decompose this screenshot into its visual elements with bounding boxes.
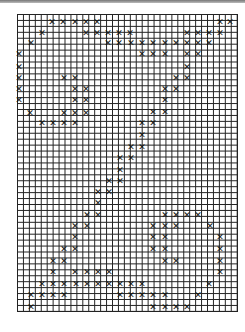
x-mark-icon: ✕ <box>49 268 57 276</box>
x-mark-icon: ✕ <box>172 257 180 265</box>
x-mark-icon: ✕ <box>149 39 157 47</box>
x-mark-icon: ✕ <box>138 280 146 288</box>
x-mark-icon: ✕ <box>27 39 35 47</box>
x-mark-icon: ✕ <box>71 245 79 253</box>
x-mark-icon: ✕ <box>161 291 169 299</box>
x-mark-icon: ✕ <box>138 131 146 139</box>
x-mark-icon: ✕ <box>194 291 202 299</box>
x-mark-icon: ✕ <box>216 268 224 276</box>
x-mark-icon: ✕ <box>161 222 169 230</box>
x-mark-icon: ✕ <box>93 29 101 37</box>
x-mark-icon: ✕ <box>82 29 90 37</box>
x-mark-icon: ✕ <box>38 291 46 299</box>
x-mark-icon: ✕ <box>183 39 191 47</box>
x-mark-icon: ✕ <box>49 119 57 127</box>
x-mark-icon: ✕ <box>206 222 214 230</box>
x-mark-icon: ✕ <box>138 39 146 47</box>
x-mark-icon: ✕ <box>71 18 79 26</box>
x-mark-icon: ✕ <box>49 257 57 265</box>
x-mark-icon: ✕ <box>138 119 146 127</box>
x-mark-icon: ✕ <box>183 29 191 37</box>
x-mark-icon: ✕ <box>161 303 169 311</box>
x-mark-icon: ✕ <box>72 280 80 288</box>
x-mark-icon: ✕ <box>49 280 57 288</box>
x-mark-icon: ✕ <box>71 233 79 241</box>
x-mark-icon: ✕ <box>15 96 23 104</box>
x-mark-icon: ✕ <box>93 18 101 26</box>
x-mark-icon: ✕ <box>127 291 135 299</box>
x-mark-icon: ✕ <box>71 96 79 104</box>
x-mark-icon: ✕ <box>183 303 191 311</box>
x-mark-icon: ✕ <box>183 74 191 82</box>
x-mark-icon: ✕ <box>149 245 157 253</box>
x-mark-icon: ✕ <box>94 280 102 288</box>
x-mark-icon: ✕ <box>127 154 135 162</box>
x-mark-icon: ✕ <box>83 211 91 219</box>
x-mark-icon: ✕ <box>149 233 157 241</box>
x-mark-icon: ✕ <box>27 291 35 299</box>
x-mark-icon: ✕ <box>15 63 23 71</box>
x-mark-icon: ✕ <box>38 29 46 37</box>
x-mark-icon: ✕ <box>60 245 68 253</box>
x-mark-icon: ✕ <box>60 280 68 288</box>
x-mark-icon: ✕ <box>126 29 134 37</box>
x-mark-icon: ✕ <box>60 74 68 82</box>
x-mark-icon: ✕ <box>94 211 102 219</box>
x-mark-icon: ✕ <box>161 257 169 265</box>
x-mark-icon: ✕ <box>83 280 91 288</box>
x-mark-icon: ✕ <box>15 50 23 58</box>
x-mark-icon: ✕ <box>183 63 191 71</box>
x-mark-icon: ✕ <box>216 245 224 253</box>
x-mark-icon: ✕ <box>216 233 224 241</box>
x-mark-icon: ✕ <box>149 50 157 58</box>
x-mark-icon: ✕ <box>82 109 90 117</box>
x-mark-icon: ✕ <box>216 257 224 265</box>
x-mark-icon: ✕ <box>172 39 180 47</box>
x-mark-icon: ✕ <box>194 29 202 37</box>
x-mark-icon: ✕ <box>26 109 34 117</box>
x-mark-icon: ✕ <box>194 50 202 58</box>
x-mark-icon: ✕ <box>194 211 202 219</box>
x-mark-icon: ✕ <box>48 18 56 26</box>
x-mark-icon: ✕ <box>161 245 169 253</box>
x-mark-icon: ✕ <box>127 39 135 47</box>
x-mark-icon: ✕ <box>105 268 113 276</box>
x-mark-icon: ✕ <box>104 39 112 47</box>
x-mark-icon: ✕ <box>161 233 169 241</box>
top-border <box>0 0 245 3</box>
x-mark-icon: ✕ <box>161 96 169 104</box>
x-mark-icon: ✕ <box>82 85 90 93</box>
x-mark-icon: ✕ <box>71 74 79 82</box>
x-mark-icon: ✕ <box>149 108 157 116</box>
x-mark-icon: ✕ <box>15 74 23 82</box>
x-mark-icon: ✕ <box>60 291 68 299</box>
x-mark-icon: ✕ <box>71 119 79 127</box>
x-mark-icon: ✕ <box>82 96 90 104</box>
x-mark-icon: ✕ <box>105 188 113 196</box>
x-mark-icon: ✕ <box>194 39 202 47</box>
x-mark-icon: ✕ <box>172 74 180 82</box>
x-mark-icon: ✕ <box>83 222 91 230</box>
x-mark-icon: ✕ <box>83 268 91 276</box>
x-mark-icon: ✕ <box>205 280 213 288</box>
x-mark-icon: ✕ <box>27 303 35 311</box>
x-mark-icon: ✕ <box>105 177 113 185</box>
x-mark-icon: ✕ <box>172 303 180 311</box>
x-mark-icon: ✕ <box>127 280 135 288</box>
x-mark-icon: ✕ <box>138 50 146 58</box>
x-mark-icon: ✕ <box>149 222 157 230</box>
x-mark-icon: ✕ <box>205 39 213 47</box>
x-mark-icon: ✕ <box>116 280 124 288</box>
x-mark-icon: ✕ <box>115 29 123 37</box>
x-mark-icon: ✕ <box>104 29 112 37</box>
x-mark-icon: ✕ <box>183 50 191 58</box>
x-mark-icon: ✕ <box>116 166 124 174</box>
x-mark-icon: ✕ <box>172 211 180 219</box>
x-mark-icon: ✕ <box>94 199 102 207</box>
x-mark-icon: ✕ <box>82 18 90 26</box>
x-mark-icon: ✕ <box>60 109 68 117</box>
x-mark-icon: ✕ <box>138 291 146 299</box>
x-mark-icon: ✕ <box>149 119 157 127</box>
x-mark-icon: ✕ <box>71 85 79 93</box>
x-mark-icon: ✕ <box>161 50 169 58</box>
